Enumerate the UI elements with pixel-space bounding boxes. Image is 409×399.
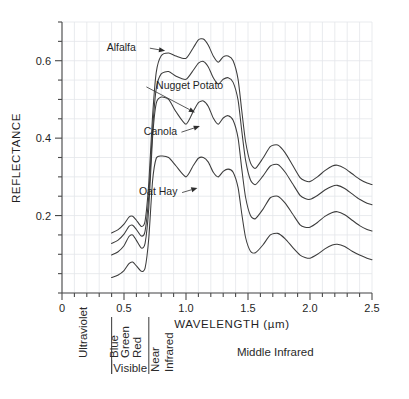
band-label-red: Red <box>131 337 143 358</box>
series-label-oat-hay: Oat Hay <box>139 185 178 197</box>
band-group-label-visible: Visible <box>113 362 147 374</box>
x-axis-tick-label: 1.0 <box>178 302 193 314</box>
x-axis-tick-label: 1.5 <box>240 302 255 314</box>
x-axis-tick-label: 0.5 <box>116 302 131 314</box>
x-axis-tick-label: 2.5 <box>364 302 379 314</box>
x-axis-tick-label: 2.0 <box>302 302 317 314</box>
x-axis-title: WAVELENGTH (µm) <box>174 318 289 330</box>
y-axis-title: REFLECTANCE <box>10 113 22 203</box>
x-axis-tick-label: 0 <box>59 302 65 314</box>
y-axis-tick-label: 0.6 <box>36 55 51 67</box>
band-label-green: Green <box>119 326 131 358</box>
series-label-nugget-potato: Nugget Potato <box>156 79 223 91</box>
band-label-near-infrared-line1: Near <box>149 347 161 372</box>
chart-svg: 0.20.40.600.51.01.52.02.5 AlfalfaNugget … <box>0 0 409 399</box>
y-axis-tick-label: 0.2 <box>36 210 51 222</box>
band-label-middle-infrared: Middle Infrared <box>237 346 314 358</box>
series-label-canola: Canola <box>144 125 177 137</box>
spectral-reflectance-figure: 0.20.40.600.51.01.52.02.5 AlfalfaNugget … <box>0 0 409 399</box>
band-label-ultraviolet: Ultraviolet <box>77 306 89 358</box>
y-axis-tick-label: 0.4 <box>36 132 51 144</box>
figure-background <box>0 0 409 399</box>
series-label-alfalfa: Alfalfa <box>107 41 136 53</box>
band-label-near-infrared-line2: Infrared <box>163 332 175 372</box>
